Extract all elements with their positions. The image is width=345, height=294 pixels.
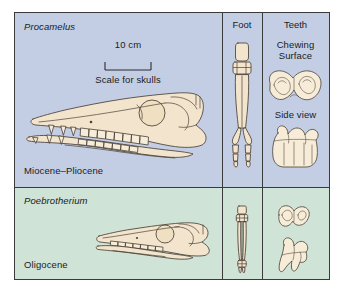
row-procamelus: Procamelus Miocene–Pliocene 10 cm Scale … xyxy=(15,13,329,187)
poebrotherium-foot xyxy=(230,204,254,274)
epoch-label-procamelus: Miocene–Pliocene xyxy=(24,165,103,176)
foot-column-header-cell: Foot xyxy=(222,19,262,30)
procamelus-side-view-tooth xyxy=(267,123,325,171)
comparison-figure: Procamelus Miocene–Pliocene 10 cm Scale … xyxy=(14,12,330,280)
teeth-column-header: Teeth xyxy=(262,19,329,30)
poebrotherium-foot-cell xyxy=(230,204,254,274)
procamelus-skull xyxy=(19,75,219,165)
poebrotherium-chewing-surface-tooth xyxy=(275,202,315,232)
poebrotherium-chewing-surface-cell xyxy=(275,202,315,232)
epoch-label-poebrotherium: Oligocene xyxy=(24,259,68,270)
row-poebrotherium: Poebrotherium Oligocene xyxy=(15,187,329,279)
genus-label-poebrotherium: Poebrotherium xyxy=(24,195,88,206)
genus-label-procamelus: Procamelus xyxy=(24,21,75,32)
procamelus-chewing-surface-tooth xyxy=(265,63,327,107)
chewing-surface-label-line1: Chewing xyxy=(262,39,329,50)
procamelus-skull-cell xyxy=(19,75,219,165)
poebrotherium-side-view-tooth xyxy=(273,236,319,274)
chewing-surface-label-line2: Surface xyxy=(262,50,329,61)
column-divider-skull-foot-bottom xyxy=(222,188,223,279)
scale-bar-ruler xyxy=(73,61,183,73)
side-view-label: Side view xyxy=(262,109,329,120)
procamelus-side-view-cell xyxy=(267,123,325,171)
foot-column-header: Foot xyxy=(222,19,262,30)
poebrotherium-skull xyxy=(93,212,221,262)
procamelus-foot xyxy=(224,39,260,169)
procamelus-chewing-surface-cell xyxy=(265,63,327,107)
poebrotherium-skull-cell xyxy=(93,212,221,262)
column-divider-foot-teeth-bottom xyxy=(262,188,263,279)
scale-value-label: 10 cm xyxy=(73,39,183,50)
procamelus-foot-cell xyxy=(224,39,260,169)
poebrotherium-side-view-cell xyxy=(273,236,319,274)
teeth-column-header-cell: Teeth xyxy=(262,19,329,30)
column-divider-skull-foot xyxy=(222,13,223,187)
